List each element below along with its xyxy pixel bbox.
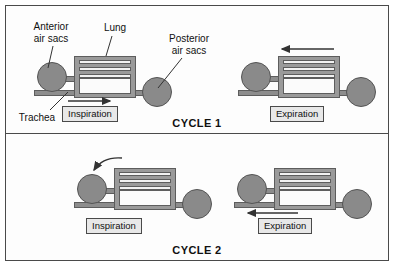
phase-label-expiration-c2: Expiration bbox=[258, 218, 312, 234]
callout-leader-lines bbox=[6, 6, 390, 134]
cycle-2-panel: Inspiration bbox=[6, 134, 388, 259]
cycle2-inspiration-diagram: Inspiration bbox=[74, 156, 224, 226]
phase-label-inspiration-c2: Inspiration bbox=[86, 218, 142, 234]
airflow-arrow-expiration-c2 bbox=[234, 156, 384, 226]
cycle-1-title: CYCLE 1 bbox=[6, 117, 388, 129]
cycle-1-panel: Inspiration bbox=[6, 6, 388, 134]
cycle-2-title: CYCLE 2 bbox=[6, 244, 388, 256]
airflow-arrow-inspiration-c2 bbox=[74, 156, 224, 226]
avian-respiration-figure: Inspiration bbox=[0, 0, 394, 266]
figure-frame: Inspiration bbox=[5, 5, 389, 261]
cycle2-expiration-diagram: Expiration bbox=[234, 156, 384, 226]
